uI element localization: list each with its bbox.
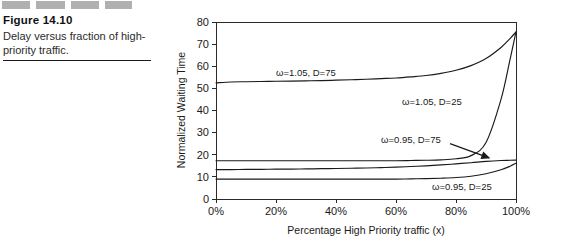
x-tick-label: 40% [325,205,347,217]
figure-number-label: Figure 14.10 [3,14,73,26]
redacted-block-2 [36,1,65,9]
redacted-block-4 [105,1,132,9]
y-tick-label: 30 [197,126,209,138]
series-line-3 [216,163,516,179]
figure-caption-block: Figure 14.10 Delay versus fraction of hi… [0,0,160,70]
series-label-2: ω=0.95, D=75 [381,134,441,145]
y-tick-label: 10 [197,171,209,183]
pointer-to-w095-d75-head [481,153,489,159]
y-tick-label: 0 [203,193,209,205]
y-tick-label: 60 [197,60,209,72]
x-tick-label: 100% [502,205,530,217]
plot-area-frame [216,22,516,199]
series-inline-labels: ω=1.05, D=75ω=1.05, D=25ω=0.95, D=75ω=0.… [276,67,492,192]
redacted-header-bar [2,1,134,9]
series-label-0: ω=1.05, D=75 [276,67,336,78]
series-line-0 [216,32,516,83]
chart-canvas: 01020304050607080 0%20%40%60%80%100% ω=1… [163,6,561,248]
redacted-block-3 [71,1,99,9]
figure-caption-text: Delay versus fraction of high-priority t… [3,29,153,57]
x-tick-label: 0% [208,205,224,217]
y-tick-label: 20 [197,149,209,161]
x-axis-title: Percentage High Priority traffic (x) [287,224,444,236]
caption-divider-rule [3,60,151,61]
x-axis: 0%20%40%60%80%100% [208,199,530,217]
series-line-1 [216,32,516,161]
series-label-3: ω=0.95, D=25 [432,181,492,192]
y-tick-label: 40 [197,104,209,116]
series-label-1: ω=1.05, D=25 [402,96,462,107]
series-line-2 [216,160,516,170]
y-tick-label: 80 [197,16,209,28]
x-tick-label: 80% [445,205,467,217]
x-tick-label: 20% [265,205,287,217]
series-paths [216,32,516,179]
y-axis-title: Normalized Waiting Time [175,52,187,168]
delay-vs-high-priority-chart: 01020304050607080 0%20%40%60%80%100% ω=1… [163,6,561,248]
y-axis: 01020304050607080 [197,16,216,205]
y-tick-label: 50 [197,82,209,94]
x-tick-label: 60% [385,205,407,217]
redacted-block-1 [2,1,30,9]
y-tick-label: 70 [197,38,209,50]
